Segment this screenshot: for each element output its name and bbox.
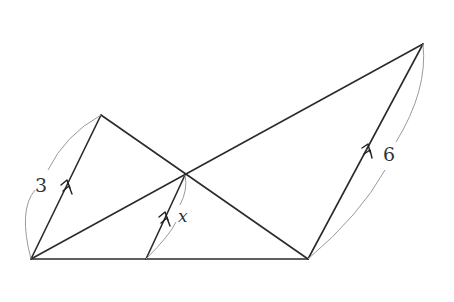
diagonal-ad: [31, 44, 423, 259]
diagonal-bc: [101, 115, 308, 259]
label-unknown-x: x: [178, 206, 188, 226]
measure-arc-right-upper: [396, 44, 424, 142]
measure-arc-left-upper: [48, 115, 101, 170]
measure-arc-right-lower: [308, 170, 385, 259]
geometry-diagram: 3 x 6: [0, 0, 454, 302]
measure-arc-left: [25, 190, 35, 259]
label-right-length: 6: [383, 143, 395, 165]
label-left-length: 3: [35, 174, 47, 196]
